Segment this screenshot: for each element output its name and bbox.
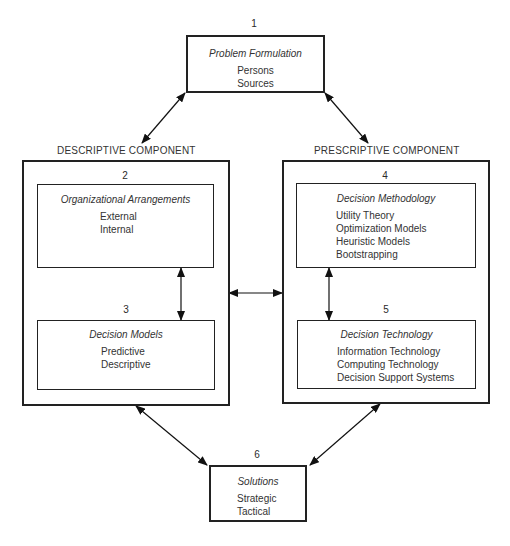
decision-methodology-title: Decision Methodology [297, 193, 475, 204]
decision-technology-box: Decision Technology Information Technolo… [297, 320, 476, 389]
organizational-arrangements-item: Internal [100, 223, 137, 236]
box-2-number: 2 [115, 170, 135, 181]
organizational-arrangements-title: Organizational Arrangements [38, 194, 213, 205]
descriptive-component-label: DESCRIPTIVE COMPONENT [57, 145, 196, 156]
box-1-number: 1 [244, 18, 264, 29]
prescriptive-component-label: PRESCRIPTIVE COMPONENT [314, 145, 460, 156]
arrow-prescriptive-to-6 [310, 404, 380, 465]
solutions-item: Strategic [237, 492, 276, 505]
decision-methodology-box: Decision Methodology Utility Theory Opti… [296, 183, 476, 268]
solutions-title: Solutions [211, 476, 305, 487]
problem-formulation-item: Persons [188, 64, 323, 77]
decision-technology-item: Decision Support Systems [337, 371, 454, 384]
arrow-1-to-prescriptive [325, 93, 368, 143]
decision-technology-item: Information Technology [337, 345, 454, 358]
decision-technology-item: Computing Technology [337, 358, 454, 371]
decision-technology-title: Decision Technology [298, 329, 475, 340]
organizational-arrangements-box: Organizational Arrangements External Int… [37, 184, 214, 268]
decision-models-item: Predictive [101, 345, 150, 358]
decision-methodology-item: Bootstrapping [336, 248, 427, 261]
problem-formulation-title: Problem Formulation [188, 48, 323, 59]
decision-models-box: Decision Models Predictive Descriptive [37, 320, 215, 390]
organizational-arrangements-item: External [100, 210, 137, 223]
solutions-item: Tactical [237, 505, 276, 518]
problem-formulation-item: Sources [188, 77, 323, 90]
box-6-number: 6 [247, 449, 267, 460]
box-3-number: 3 [116, 304, 136, 315]
arrow-descriptive-to-6 [136, 406, 207, 465]
box-4-number: 4 [375, 170, 395, 181]
decision-models-item: Descriptive [101, 358, 150, 371]
solutions-box: Solutions Strategic Tactical [209, 465, 307, 522]
decision-methodology-item: Heuristic Models [336, 235, 427, 248]
box-5-number: 5 [376, 304, 396, 315]
decision-models-title: Decision Models [38, 329, 214, 340]
decision-methodology-item: Optimization Models [336, 222, 427, 235]
arrow-1-to-descriptive [142, 93, 185, 143]
problem-formulation-box: Problem Formulation Persons Sources [186, 35, 325, 93]
decision-methodology-item: Utility Theory [336, 209, 427, 222]
